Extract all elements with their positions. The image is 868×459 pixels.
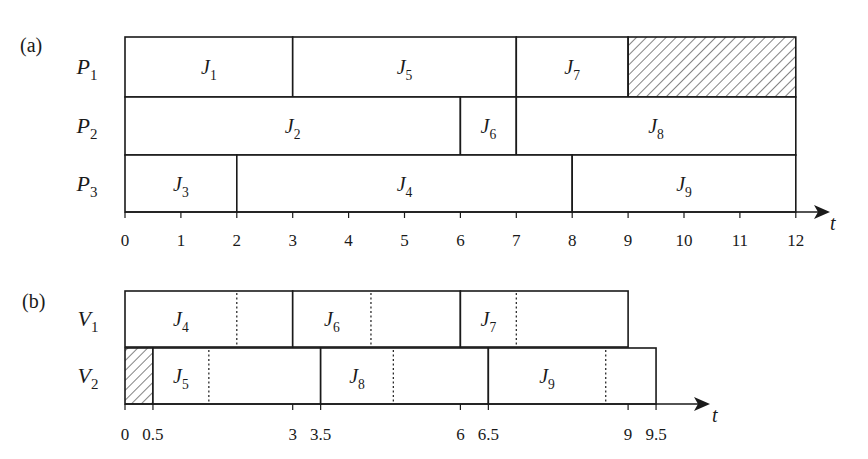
tick-label: 6 [456,231,465,250]
tick-label: 1 [177,231,186,250]
tick-label: 9 [624,425,633,444]
idle-block [628,37,796,97]
panel-b-rows: V1J4J6J7V2J5J8J9 [78,291,657,404]
virtual-machine-label: V1 [78,306,99,335]
processor-row-p1: P1J1J5J7 [76,37,796,97]
tick-label: 0.5 [142,425,163,444]
tick-label: 0 [121,425,130,444]
tick-label: 4 [344,231,353,250]
gantt-schedule-diagram: (a) P1J1J5J7P2J2J6J8P3J3J4J9 01234567891… [0,0,868,459]
panel-a-axis-label: t [830,212,836,234]
processor-label: P1 [76,54,98,83]
idle-block [125,348,153,404]
tick-label: 8 [568,231,577,250]
tick-label: 9 [624,231,633,250]
job-block-j6 [293,291,461,347]
job-block-j8 [321,348,489,404]
tick-label: 0 [121,231,130,250]
panel-b-axis-label: t [712,404,718,426]
panel-a-processor-schedule: (a) P1J1J5J7P2J2J6J8P3J3J4J9 01234567891… [20,34,836,250]
tick-label: 11 [732,231,748,250]
tick-label: 10 [676,231,693,250]
virtual-row-v2: V2J5J8J9 [78,348,657,404]
tick-label: 5 [400,231,409,250]
job-block-j4 [125,291,293,347]
tick-label: 3.5 [310,425,331,444]
virtual-machine-label: V2 [78,363,99,392]
tick-label: 12 [787,231,804,250]
panel-a-label: (a) [20,34,42,57]
panel-b-virtual-schedule: (b) V1J4J6J7V2J5J8J9 00.533.566.599.5 t [22,290,718,444]
processor-label: P2 [76,113,98,142]
processor-label: P3 [76,171,98,200]
panel-b-ticks: 00.533.566.599.5 [121,404,667,444]
tick-label: 7 [512,231,521,250]
tick-label: 6.5 [478,425,499,444]
panel-b-label: (b) [22,290,45,313]
processor-row-p3: P3J3J4J9 [76,155,796,212]
tick-label: 3 [288,231,297,250]
panel-a-ticks: 0123456789101112 [121,212,805,250]
processor-row-p2: P2J2J6J8 [76,97,796,155]
tick-label: 6 [456,425,465,444]
virtual-row-v1: V1J4J6J7 [78,291,629,347]
tick-label: 2 [233,231,242,250]
tick-label: 3 [288,425,297,444]
panel-a-rows: P1J1J5J7P2J2J6J8P3J3J4J9 [76,37,796,212]
tick-label: 9.5 [645,425,666,444]
job-block-j9 [488,348,656,404]
